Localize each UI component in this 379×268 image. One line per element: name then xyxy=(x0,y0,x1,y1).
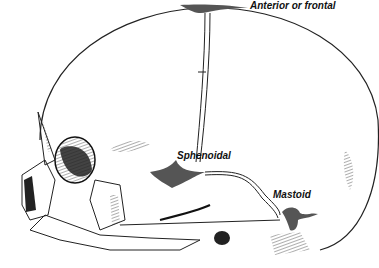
skull-diagram: Anterior or frontal Sphenoidal Mastoid xyxy=(0,0,379,268)
label-anterior-fontanelle: Anterior or frontal xyxy=(250,0,336,11)
sphenoidal-fontanelle xyxy=(150,160,205,188)
ear-canal xyxy=(214,231,230,245)
label-mastoid-fontanelle: Mastoid xyxy=(273,189,311,200)
skull-drawing xyxy=(0,0,379,268)
mastoid-fontanelle xyxy=(282,208,318,231)
label-sphenoidal-fontanelle: Sphenoidal xyxy=(177,150,231,161)
